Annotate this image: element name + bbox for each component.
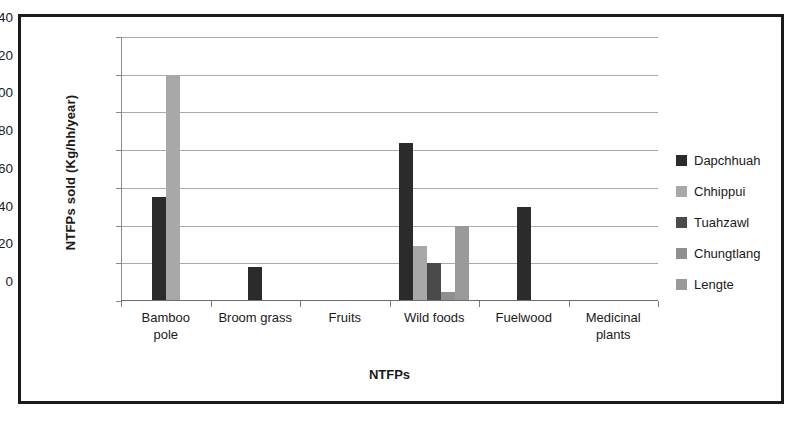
bar [427,263,441,301]
x-axis-category-label: Medicinalplants [569,309,659,343]
bar-group-bars [300,37,390,301]
bar-group-bars [121,37,211,301]
bar-group [390,37,480,301]
x-axis-tick [121,301,122,307]
bar-group [300,37,390,301]
y-axis-tick-label: 140 [0,10,13,25]
legend-item: Dapchhuah [676,145,802,176]
x-axis-category-labels: BamboopoleBroom grassFruitsWild foodsFue… [121,309,658,359]
bar [455,226,469,301]
legend-item: Lengte [676,269,802,300]
legend-label: Lengte [694,277,734,292]
x-axis-category-label: Bamboopole [121,309,211,343]
legend-item: Chungtlang [676,238,802,269]
x-axis-tick [569,301,570,307]
legend-label: Chhippui [694,184,745,199]
x-axis-tick [658,301,659,307]
x-axis-category-label: Wild foods [390,309,480,326]
x-axis-tick [479,301,480,307]
bar-group-bars [390,37,480,301]
legend-swatch-icon [676,248,687,259]
y-axis-tick-label: 120 [0,47,13,62]
bar-group [479,37,569,301]
plot-area [121,37,658,301]
y-axis-tick-label: 0 [0,274,13,289]
bar [166,75,180,301]
x-axis-tick [211,301,212,307]
legend-item: Chhippui [676,176,802,207]
legend-item: Tuahzawl [676,207,802,238]
y-axis-tick-label: 40 [0,198,13,213]
y-axis-tick-labels: 020406080100120140 [0,17,13,401]
x-axis-category-label: Fruits [300,309,390,326]
x-axis-category-label: Fuelwood [479,309,569,326]
chart-figure: NTFPs sold (Kg/hh/year) 0204060801001201… [0,0,802,422]
bar-group-bars [569,37,659,301]
y-axis-tick-label: 100 [0,85,13,100]
bar [413,246,427,301]
bar [517,207,531,301]
x-axis-category-label: Broom grass [211,309,301,326]
chart-frame: NTFPs sold (Kg/hh/year) 0204060801001201… [18,14,784,404]
legend-label: Chungtlang [694,246,761,261]
legend-swatch-icon [676,155,687,166]
bar [399,143,413,301]
x-axis-tick [300,301,301,307]
legend-swatch-icon [676,279,687,290]
bar-group [121,37,211,301]
bar [248,267,262,301]
y-axis-title: NTFPs sold (Kg/hh/year) [63,58,78,288]
bar [152,197,166,301]
x-axis-tick [390,301,391,307]
bar-group-bars [211,37,301,301]
legend-swatch-icon [676,217,687,228]
legend-label: Tuahzawl [694,215,749,230]
bar-group [211,37,301,301]
x-axis-title: NTFPs [121,367,658,382]
bar-group-bars [479,37,569,301]
legend-label: Dapchhuah [694,153,761,168]
y-axis-tick-label: 60 [0,160,13,175]
legend-swatch-icon [676,186,687,197]
bar-group [569,37,659,301]
y-axis-tick-label: 80 [0,123,13,138]
y-axis-tick-label: 20 [0,236,13,251]
chart-legend: DapchhuahChhippuiTuahzawlChungtlangLengt… [676,145,802,300]
